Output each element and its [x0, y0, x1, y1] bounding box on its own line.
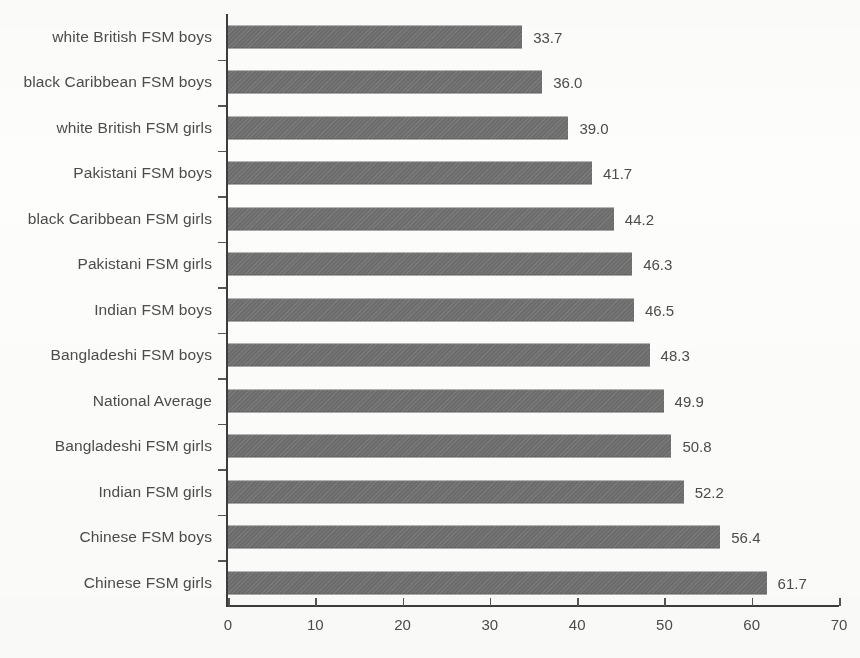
x-axis-tick [228, 598, 230, 606]
bar [228, 71, 542, 94]
x-axis-tick [664, 598, 666, 606]
bar-value-label: 39.0 [579, 119, 608, 136]
bar-value-label: 52.2 [695, 483, 724, 500]
bar-value-label: 33.7 [533, 28, 562, 45]
x-axis-tick-label: 50 [656, 616, 673, 633]
x-axis-tick-label: 0 [224, 616, 232, 633]
bar-row: black Caribbean FSM girls44.2 [0, 196, 860, 241]
bar-value-label: 61.7 [778, 574, 807, 591]
bar-value-label: 36.0 [553, 74, 582, 91]
y-axis-tick [218, 378, 226, 380]
bar [228, 435, 671, 458]
y-axis-tick [218, 287, 226, 289]
bar-row: National Average49.9 [0, 378, 860, 423]
bar [228, 389, 664, 412]
bar-row: Pakistani FSM girls46.3 [0, 242, 860, 287]
bar [228, 571, 767, 594]
bar-chart: white British FSM boys33.7black Caribbea… [0, 0, 860, 658]
y-axis-tick [218, 560, 226, 562]
x-axis-tick [839, 598, 841, 606]
bar-row: Indian FSM boys46.5 [0, 287, 860, 332]
bar-row: Bangladeshi FSM girls50.8 [0, 424, 860, 469]
bar-value-label: 41.7 [603, 165, 632, 182]
category-label: Bangladeshi FSM boys [51, 346, 212, 364]
x-axis-tick-label: 10 [307, 616, 324, 633]
bar-value-label: 56.4 [731, 529, 760, 546]
bar [228, 116, 568, 139]
bar [228, 25, 522, 48]
y-axis-tick [218, 105, 226, 107]
x-axis-tick-label: 30 [482, 616, 499, 633]
bar-value-label: 44.2 [625, 210, 654, 227]
x-axis-tick [752, 598, 754, 606]
bar-row: Chinese FSM boys56.4 [0, 515, 860, 560]
bar [228, 480, 684, 503]
category-label: Chinese FSM boys [79, 528, 212, 546]
category-label: white British FSM boys [52, 28, 212, 46]
category-label: black Caribbean FSM girls [28, 210, 212, 228]
plot-area: white British FSM boys33.7black Caribbea… [0, 0, 860, 658]
x-axis-tick-label: 70 [831, 616, 848, 633]
bar-row: white British FSM girls39.0 [0, 105, 860, 150]
y-axis-tick [218, 424, 226, 426]
bar-value-label: 48.3 [661, 347, 690, 364]
bar-value-label: 46.3 [643, 256, 672, 273]
bar [228, 207, 614, 230]
category-label: Pakistani FSM boys [73, 164, 212, 182]
category-label: Bangladeshi FSM girls [55, 437, 212, 455]
bar-value-label: 50.8 [682, 438, 711, 455]
bar [228, 526, 720, 549]
y-axis-tick [218, 515, 226, 517]
bar [228, 253, 632, 276]
x-axis-tick-label: 40 [569, 616, 586, 633]
category-label: Indian FSM girls [98, 483, 212, 501]
bar-row: Pakistani FSM boys41.7 [0, 151, 860, 196]
y-axis-tick [218, 333, 226, 335]
y-axis-tick [218, 151, 226, 153]
category-label: National Average [93, 392, 212, 410]
bar [228, 162, 592, 185]
bar [228, 344, 650, 367]
category-label: black Caribbean FSM boys [24, 73, 212, 91]
x-axis-tick [577, 598, 579, 606]
bar-row: white British FSM boys33.7 [0, 14, 860, 59]
category-label: Indian FSM boys [94, 301, 212, 319]
x-axis-line [226, 605, 839, 607]
category-label: Chinese FSM girls [84, 574, 212, 592]
x-axis-tick-label: 60 [743, 616, 760, 633]
y-axis-tick [218, 242, 226, 244]
x-axis-tick-label: 20 [394, 616, 411, 633]
y-axis-tick [218, 469, 226, 471]
bar [228, 298, 634, 321]
category-label: white British FSM girls [56, 119, 212, 137]
x-axis-tick [315, 598, 317, 606]
y-axis-tick [218, 60, 226, 62]
bar-row: black Caribbean FSM boys36.0 [0, 60, 860, 105]
y-axis-tick [218, 196, 226, 198]
x-axis-tick [403, 598, 405, 606]
bar-value-label: 49.9 [675, 392, 704, 409]
x-axis-tick [490, 598, 492, 606]
bar-row: Chinese FSM girls61.7 [0, 560, 860, 605]
bar-row: Bangladeshi FSM boys48.3 [0, 333, 860, 378]
category-label: Pakistani FSM girls [77, 255, 212, 273]
bar-row: Indian FSM girls52.2 [0, 469, 860, 514]
bar-value-label: 46.5 [645, 301, 674, 318]
